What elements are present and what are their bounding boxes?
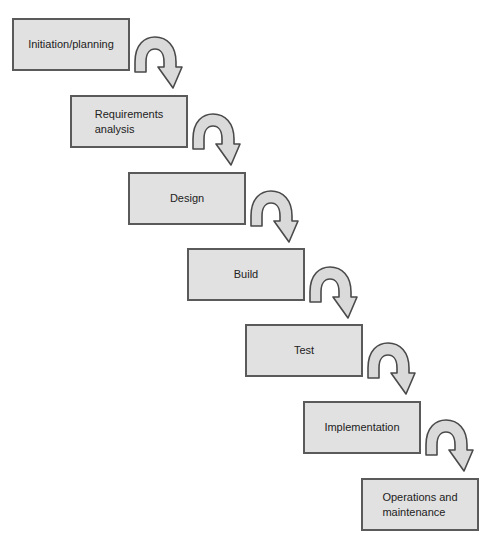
curved-down-arrow-icon <box>368 343 415 394</box>
curved-down-arrow-icon <box>193 114 240 165</box>
curved-down-arrow-icon <box>426 420 473 471</box>
curved-down-arrow-icon <box>310 267 357 318</box>
curved-down-arrow-icon <box>251 191 298 242</box>
connector-layer <box>0 0 491 545</box>
curved-down-arrow-icon <box>135 37 182 88</box>
